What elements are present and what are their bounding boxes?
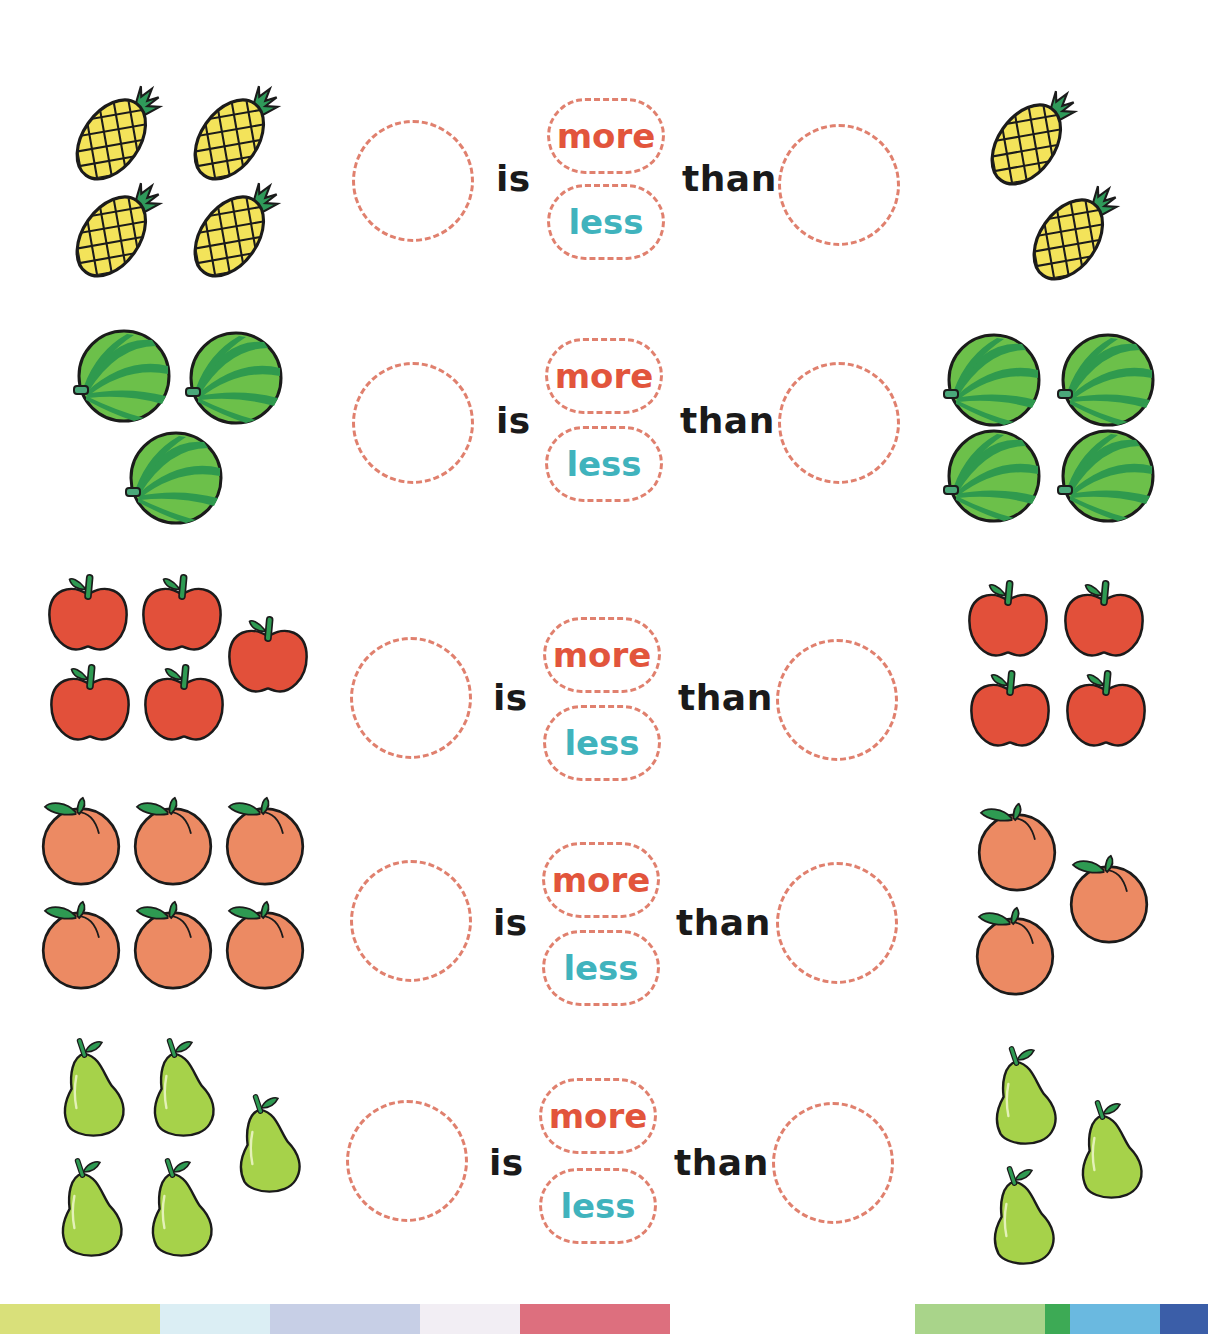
apple-icon [964, 667, 1056, 751]
left-fruit-group [40, 565, 320, 765]
apple-icon [1058, 577, 1150, 661]
apple-icon [222, 613, 314, 697]
peach-icon [972, 800, 1062, 894]
watermelon-icon [184, 328, 284, 428]
option-less[interactable]: less [545, 426, 663, 502]
comparison-row-peach: is more less than [0, 792, 1208, 1002]
apple-icon [42, 571, 134, 655]
option-more[interactable]: more [547, 98, 665, 174]
color-block [1070, 1304, 1160, 1334]
right-fruit-group [968, 792, 1158, 1002]
color-block [160, 1304, 270, 1334]
apple-icon [1060, 667, 1152, 751]
word-is: is [493, 902, 528, 943]
word-is: is [489, 1142, 524, 1183]
word-than: than [674, 1142, 769, 1183]
pear-icon [986, 1044, 1066, 1148]
color-block [270, 1304, 420, 1334]
option-more[interactable]: more [545, 338, 663, 414]
peach-icon [36, 898, 126, 992]
right-fruit-group [980, 1030, 1160, 1270]
watermelon-icon [942, 330, 1042, 430]
pear-icon [1072, 1098, 1152, 1202]
left-fruit-group [55, 70, 305, 300]
word-than: than [676, 902, 771, 943]
comparison-row-pear: is more less than [0, 1030, 1208, 1270]
peach-icon [220, 898, 310, 992]
apple-icon [138, 661, 230, 745]
left-count-answer-circle[interactable] [352, 120, 474, 242]
pear-icon [984, 1164, 1064, 1268]
pear-icon [142, 1156, 222, 1260]
left-count-answer-circle[interactable] [352, 362, 474, 484]
left-count-answer-circle[interactable] [350, 637, 472, 759]
word-than: than [682, 158, 777, 199]
comparison-row-watermelon: is more less than [0, 320, 1208, 530]
watermelon-icon [72, 326, 172, 426]
option-more[interactable]: more [539, 1078, 657, 1154]
pear-icon [144, 1036, 224, 1140]
watermelon-icon [124, 428, 224, 528]
left-fruit-group [70, 320, 300, 530]
right-fruit-group [970, 70, 1150, 300]
watermelon-icon [942, 426, 1042, 526]
right-count-answer-circle[interactable] [778, 362, 900, 484]
word-than: than [678, 677, 773, 718]
right-count-answer-circle[interactable] [776, 862, 898, 984]
apple-icon [136, 571, 228, 655]
peach-icon [36, 794, 126, 888]
peach-icon [128, 898, 218, 992]
left-fruit-group [36, 792, 316, 1002]
watermelon-icon [1056, 330, 1156, 430]
right-count-answer-circle[interactable] [772, 1102, 894, 1224]
option-more[interactable]: more [543, 617, 661, 693]
footer-color-strip [0, 1304, 1208, 1334]
watermelon-icon [1056, 426, 1156, 526]
option-less[interactable]: less [539, 1168, 657, 1244]
left-count-answer-circle[interactable] [350, 860, 472, 982]
word-is: is [496, 400, 531, 441]
comparison-row-apple: is more less than [0, 565, 1208, 765]
left-fruit-group [50, 1030, 320, 1270]
color-block [420, 1304, 520, 1334]
option-less[interactable]: less [547, 184, 665, 260]
option-less[interactable]: less [542, 930, 660, 1006]
peach-icon [220, 794, 310, 888]
right-count-answer-circle[interactable] [776, 639, 898, 761]
apple-icon [44, 661, 136, 745]
right-fruit-group [942, 320, 1162, 530]
word-is: is [493, 677, 528, 718]
left-count-answer-circle[interactable] [346, 1100, 468, 1222]
peach-icon [1064, 852, 1154, 946]
pear-icon [230, 1092, 310, 1196]
comparison-row-pineapple: is more less than [0, 70, 1208, 300]
word-than: than [680, 400, 775, 441]
color-block [1160, 1304, 1208, 1334]
option-less[interactable]: less [543, 705, 661, 781]
color-block [915, 1304, 1045, 1334]
color-block [520, 1304, 670, 1334]
pineapple-icon [173, 172, 288, 287]
right-count-answer-circle[interactable] [778, 124, 900, 246]
apple-icon [962, 577, 1054, 661]
word-is: is [496, 158, 531, 199]
pear-icon [54, 1036, 134, 1140]
pineapple-icon [1012, 175, 1127, 290]
right-fruit-group [960, 565, 1160, 765]
color-block [0, 1304, 160, 1334]
peach-icon [128, 794, 218, 888]
peach-icon [970, 904, 1060, 998]
pear-icon [52, 1156, 132, 1260]
color-block [1045, 1304, 1070, 1334]
option-more[interactable]: more [542, 842, 660, 918]
pineapple-icon [55, 172, 170, 287]
